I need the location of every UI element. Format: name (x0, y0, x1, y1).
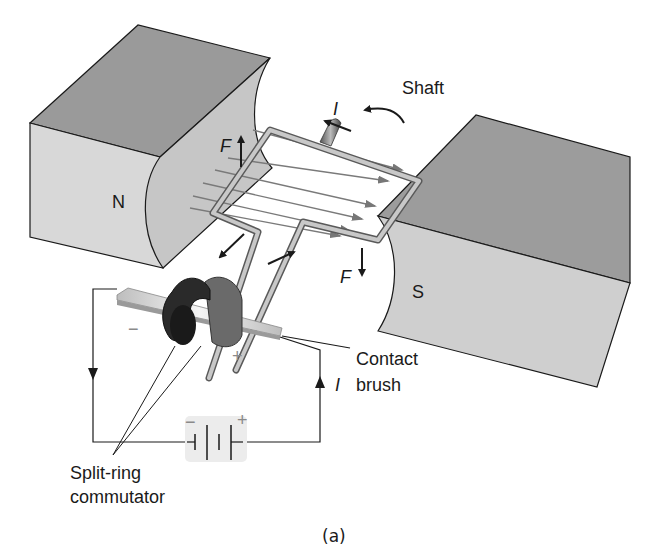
current-loop (209, 130, 419, 378)
current-label-top: I (333, 99, 338, 119)
brush-minus-sign: − (128, 319, 139, 339)
figure-caption: (a) (322, 526, 346, 546)
shaft-label: Shaft (402, 78, 444, 98)
shaft: Shaft (320, 78, 444, 146)
force-label-left: F (220, 136, 232, 156)
commutator-label-line2: commutator (70, 487, 165, 507)
south-pole-label: S (412, 282, 424, 302)
current-label-circuit: I (335, 375, 340, 395)
contact-brush-label-line2: brush (356, 375, 401, 395)
dc-motor-diagram: N S Shaft I F F (0, 0, 668, 558)
north-pole-label: N (112, 192, 125, 212)
brush-plus-sign: + (232, 346, 243, 366)
force-label-right: F (340, 267, 352, 287)
battery-minus-sign: − (185, 412, 196, 432)
contact-brush-label-line1: Contact (356, 349, 418, 369)
commutator-label-line1: Split-ring (70, 463, 141, 483)
south-magnet: S (378, 115, 630, 387)
rotation-arrow-icon (365, 109, 404, 123)
north-magnet: N (30, 25, 272, 268)
battery-plus-sign: + (237, 410, 248, 430)
